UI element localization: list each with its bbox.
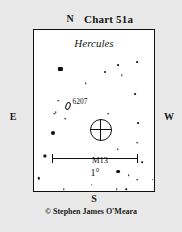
chart-title: Chart 51a	[84, 13, 133, 25]
star-marker	[63, 189, 64, 190]
star-marker	[117, 65, 119, 67]
star-marker	[137, 122, 139, 124]
direction-label-east: E	[6, 112, 20, 122]
scale-bar	[52, 154, 138, 163]
scale-bar-cap-right	[137, 154, 138, 163]
star-marker	[141, 161, 143, 163]
star-marker	[134, 93, 136, 95]
star-marker	[51, 131, 55, 135]
copyright-credit: © Stephen James O'Meara	[0, 207, 182, 216]
star-marker	[91, 184, 93, 186]
sky-field-panel: Hercules M136207 1°	[33, 29, 155, 192]
star-chart: N Chart 51a E W Hercules M136207 1° S © …	[0, 0, 182, 232]
star-marker	[54, 113, 55, 114]
star-marker	[57, 100, 59, 102]
galaxy-marker-ngc6207	[64, 101, 72, 110]
star-marker	[108, 113, 109, 114]
star-marker	[136, 61, 138, 63]
star-marker	[116, 189, 118, 191]
star-marker	[55, 111, 57, 113]
star-marker	[136, 142, 138, 144]
star-marker	[58, 67, 62, 71]
scale-bar-label: 1°	[52, 167, 138, 178]
star-marker	[121, 74, 123, 76]
constellation-label: Hercules	[34, 37, 154, 49]
star-marker	[126, 189, 128, 191]
star-marker	[104, 71, 106, 73]
star-marker	[38, 177, 40, 179]
star-marker	[43, 154, 46, 157]
globular-cluster-marker-m13	[90, 119, 112, 141]
direction-label-north: N	[60, 14, 80, 24]
scale-bar-line	[52, 158, 138, 159]
object-label-ngc6207: 6207	[72, 98, 87, 106]
star-marker	[117, 148, 118, 149]
crosshair-horizontal	[90, 129, 112, 130]
direction-label-west: W	[162, 112, 176, 122]
star-marker	[85, 82, 87, 84]
star-marker	[136, 179, 138, 181]
star-marker	[152, 179, 154, 181]
direction-label-south: S	[84, 194, 104, 204]
star-marker	[64, 118, 66, 120]
